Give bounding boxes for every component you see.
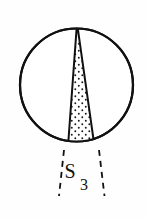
label-subscript-3: 3 [80, 176, 88, 193]
figure-container: S 3 [0, 0, 147, 219]
geometry-figure: S 3 [0, 0, 147, 219]
label-s: S [64, 160, 75, 182]
